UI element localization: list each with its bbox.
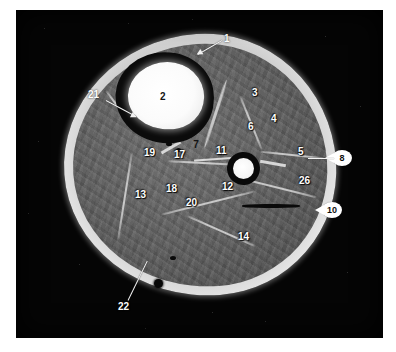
vessel-focus [242, 204, 300, 208]
saphenous-vein-focus [154, 279, 163, 288]
label-13: 13 [135, 190, 146, 200]
figure-panel: 1 2 3 4 5 6 7 8 10 11 12 13 14 17 [0, 0, 396, 352]
noise-speckle [145, 328, 146, 329]
noise-speckle [44, 28, 45, 29]
noise-speckle [212, 312, 213, 313]
label-5: 5 [298, 147, 304, 157]
noise-speckle [265, 321, 266, 322]
label-18: 18 [166, 184, 177, 194]
label-8-callout: 8 [332, 150, 352, 166]
label-12: 12 [222, 182, 233, 192]
limb-cross-section [64, 34, 336, 296]
vessel-focus [170, 256, 176, 260]
label-26: 26 [299, 176, 310, 186]
label-2: 2 [160, 92, 166, 102]
label-19: 19 [144, 148, 155, 158]
label-10: 10 [327, 205, 337, 215]
noise-speckle [38, 141, 39, 142]
label-21: 21 [88, 90, 99, 100]
noise-speckle [347, 272, 348, 273]
fibula-marrow [233, 158, 254, 179]
noise-speckle [128, 23, 129, 24]
label-22: 22 [118, 302, 129, 312]
callout-tail-icon [315, 205, 324, 215]
label-4: 4 [271, 114, 277, 124]
leader-line-8 [308, 158, 334, 159]
noise-speckle [192, 19, 193, 20]
noise-speckle [360, 106, 361, 107]
noise-speckle [28, 213, 29, 214]
label-6: 6 [248, 122, 254, 132]
label-1: 1 [224, 34, 230, 44]
scan-canvas: 1 2 3 4 5 6 7 8 10 11 12 13 14 17 [16, 10, 383, 338]
label-8: 8 [339, 153, 344, 163]
label-14: 14 [238, 232, 249, 242]
label-7: 7 [188, 136, 204, 152]
label-20: 20 [186, 198, 197, 208]
label-11: 11 [216, 146, 227, 156]
vessel-focus [166, 142, 172, 146]
label-17: 17 [174, 150, 185, 160]
label-3: 3 [252, 88, 258, 98]
label-10-callout: 10 [322, 202, 342, 218]
